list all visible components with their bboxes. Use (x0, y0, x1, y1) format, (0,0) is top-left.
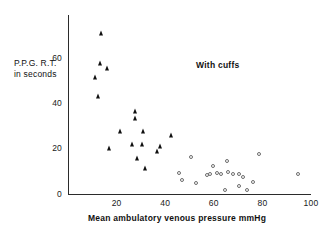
data-point-triangle (118, 129, 122, 134)
y-tick-label: 0 (40, 189, 62, 199)
x-axis-line (68, 194, 311, 195)
y-axis-line (68, 15, 69, 195)
data-point-triangle (141, 129, 145, 134)
data-point-triangle (130, 141, 134, 146)
data-point-circle (208, 172, 212, 176)
x-axis-title: Mean ambulatory venous pressure mmHg (88, 213, 266, 223)
scatter-plot-figure: P.P.G. R.T. in seconds Mean ambulatory v… (0, 0, 333, 230)
data-point-triangle (105, 65, 109, 70)
y-axis-title-line-2: in seconds (14, 69, 57, 80)
data-point-circle (219, 172, 223, 176)
data-point-circle (223, 188, 227, 192)
data-point-triangle (158, 144, 162, 149)
data-point-circle (177, 171, 181, 175)
x-tick-label: 40 (153, 198, 177, 208)
data-point-triangle (133, 115, 137, 120)
data-point-triangle (133, 108, 137, 113)
data-point-triangle (143, 165, 147, 170)
data-point-circle (225, 159, 229, 163)
data-point-circle (194, 181, 198, 185)
x-tick-label: 20 (105, 198, 129, 208)
data-point-triangle (155, 148, 159, 153)
data-point-circle (237, 184, 241, 188)
data-point-circle (241, 175, 245, 179)
series-annotation-with-cuffs: With cuffs (196, 60, 240, 70)
y-tick-label: 60 (40, 53, 62, 63)
data-point-triangle (96, 94, 100, 99)
data-point-triangle (140, 141, 144, 146)
data-point-triangle (99, 30, 103, 35)
data-point-circle (257, 152, 261, 156)
data-point-triangle (107, 146, 111, 151)
data-point-circle (231, 172, 235, 176)
data-point-circle (245, 188, 249, 192)
data-point-circle (296, 172, 300, 176)
y-tick-label: 40 (40, 98, 62, 108)
data-point-circle (211, 164, 215, 168)
data-point-circle (226, 170, 230, 174)
data-point-circle (189, 155, 193, 159)
data-point-circle (180, 178, 184, 182)
y-tick-label: 20 (40, 143, 62, 153)
x-tick-label: 100 (299, 198, 323, 208)
data-point-triangle (169, 132, 173, 137)
data-point-circle (251, 180, 255, 184)
data-point-triangle (98, 61, 102, 66)
x-tick-label: 80 (250, 198, 274, 208)
x-tick-label: 60 (202, 198, 226, 208)
data-point-triangle (135, 156, 139, 161)
data-point-triangle (93, 74, 97, 79)
